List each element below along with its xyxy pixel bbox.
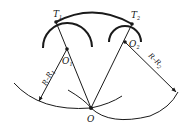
point-o — [89, 106, 93, 110]
label-o2: O2 — [129, 39, 140, 50]
dimension-right — [125, 42, 176, 92]
point-o1 — [65, 47, 69, 51]
point-t2 — [130, 22, 134, 26]
label-t2: T2 — [131, 10, 140, 21]
label-t1: T1 — [53, 9, 62, 20]
locus-arc-right — [68, 90, 178, 120]
tangent-arc-construction-diagram: T1 T2 O1 O2 O R–R1 R–R2 — [0, 0, 185, 128]
point-o2 — [123, 40, 127, 44]
line-t2-o — [91, 24, 132, 108]
point-t1 — [54, 20, 58, 24]
label-o: O — [87, 114, 95, 124]
locus-arc-left — [14, 83, 122, 108]
dimension-right-label: R–R2 — [145, 51, 164, 70]
arc-o1 — [43, 23, 92, 48]
dimension-left-label: R–R1 — [40, 68, 57, 88]
